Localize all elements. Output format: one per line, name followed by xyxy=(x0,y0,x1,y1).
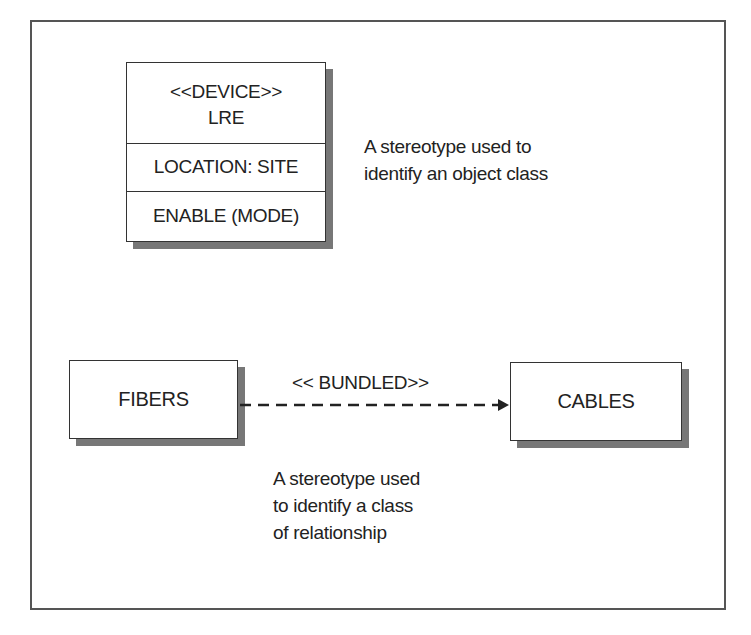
cables-label: CABLES xyxy=(511,363,681,440)
relationship-stereotype-label: << BUNDLED>> xyxy=(292,372,429,394)
relationship-stereotype-note: A stereotype used to identify a class of… xyxy=(273,465,420,546)
fibers-label: FIBERS xyxy=(70,361,237,438)
class-stereotype-note: A stereotype used to identify an object … xyxy=(364,133,548,187)
operation-compartment: ENABLE (MODE) xyxy=(127,191,325,242)
stereotype-label: <<DEVICE>> xyxy=(127,79,325,105)
class-box-lre: <<DEVICE>> LRE LOCATION: SITE ENABLE (MO… xyxy=(126,62,326,242)
attribute-compartment: LOCATION: SITE xyxy=(127,143,325,191)
note-line: of relationship xyxy=(273,519,420,546)
class-name: LRE xyxy=(127,105,325,131)
note-line: identify an object class xyxy=(364,160,548,187)
class-box-fibers: FIBERS xyxy=(69,360,238,439)
note-line: A stereotype used xyxy=(273,465,420,492)
class-name-compartment: <<DEVICE>> LRE xyxy=(127,63,325,143)
attribute-text: LOCATION: SITE xyxy=(154,156,298,177)
dependency-arrow xyxy=(238,395,513,415)
operation-text: ENABLE (MODE) xyxy=(153,205,299,226)
note-line: A stereotype used to xyxy=(364,133,548,160)
note-line: to identify a class xyxy=(273,492,420,519)
class-box-cables: CABLES xyxy=(510,362,682,441)
